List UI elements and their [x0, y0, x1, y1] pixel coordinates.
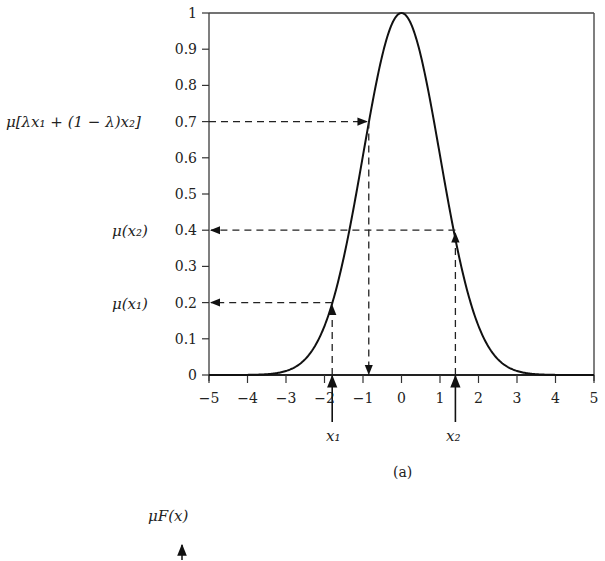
x-tick-label: −4 — [237, 390, 258, 406]
y-label-mu-x2: μ(x₂) — [112, 222, 148, 240]
y-tick-label: 0.3 — [175, 258, 197, 274]
y-axis-ticks: 00.10.20.30.40.50.60.70.80.91 — [175, 5, 209, 383]
y-tick-label: 0.5 — [175, 186, 197, 202]
x-tick-label: 4 — [551, 390, 560, 406]
x-label-x2: x₂ — [446, 427, 460, 445]
y-tick-label: 0.4 — [175, 222, 197, 238]
y-tick-label: 0.1 — [175, 331, 197, 347]
next-panel-y-label: μF(x) — [148, 507, 188, 525]
y-tick-label: 0.2 — [175, 295, 197, 311]
y-tick-label: 0.8 — [175, 77, 197, 93]
x-label-x1: x₁ — [326, 427, 340, 445]
x-tick-label: 1 — [436, 390, 445, 406]
x-tick-label: −5 — [199, 390, 220, 406]
x-tick-label: 0 — [397, 390, 406, 406]
y-tick-label: 1 — [188, 5, 197, 21]
x-tick-label: 3 — [513, 390, 522, 406]
y-tick-label: 0 — [188, 367, 197, 383]
y-tick-label: 0.7 — [175, 114, 197, 130]
y-label-mu-mixture: μ[λx₁ + (1 − λ)x₂] — [6, 113, 141, 131]
plot-frame — [209, 13, 594, 381]
dashed-guide-lines — [209, 122, 455, 375]
panel-label: (a) — [393, 464, 412, 480]
y-tick-label: 0.6 — [175, 150, 197, 166]
y-tick-label: 0.9 — [175, 41, 197, 57]
y-label-mu-x1: μ(x₁) — [112, 295, 148, 313]
x-tick-label: −3 — [276, 390, 297, 406]
x-axis-ticks: −5−4−3−2−1012345 — [199, 375, 599, 406]
gaussian-membership-plot: 00.10.20.30.40.50.60.70.80.91 −5−4−3−2−1… — [0, 0, 605, 561]
x-tick-label: 2 — [474, 390, 483, 406]
x-tick-label: −1 — [353, 390, 374, 406]
x-tick-label: 5 — [590, 390, 599, 406]
membership-function-figure: 00.10.20.30.40.50.60.70.80.91 −5−4−3−2−1… — [0, 0, 605, 561]
gaussian-curve — [209, 13, 594, 375]
